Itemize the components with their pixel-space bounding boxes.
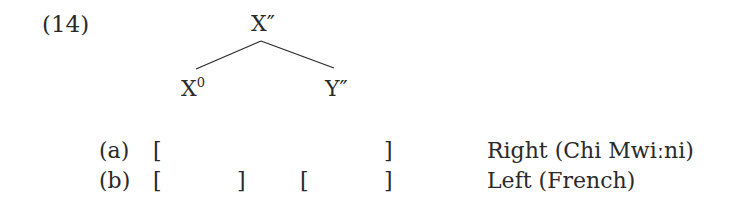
row-b-close-bracket-1: ] — [237, 170, 246, 192]
tree-left-node: X0 — [181, 78, 205, 100]
row-b-description: Left (French) — [487, 170, 635, 192]
row-b-open-bracket-2: [ — [300, 170, 309, 192]
row-a-marker: (a) — [99, 140, 129, 162]
row-b-marker: (b) — [99, 170, 130, 192]
tree-right-node: Y″ — [325, 78, 348, 100]
row-a-description: Right (Chi Mwiːni) — [487, 140, 694, 162]
row-b-open-bracket-1: [ — [153, 170, 162, 192]
tree-root-node: X″ — [251, 13, 275, 35]
row-a-open-bracket: [ — [153, 140, 162, 162]
row-a-close-bracket: ] — [384, 140, 393, 162]
row-b-close-bracket-2: ] — [384, 170, 393, 192]
